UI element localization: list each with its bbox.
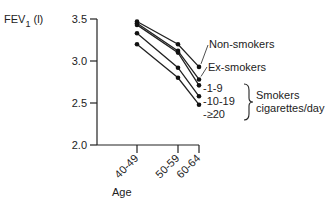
legend-label-1-9: -1-9 <box>203 82 223 94</box>
legend-label-non-smokers: Non-smokers <box>209 38 275 50</box>
data-point <box>176 65 181 70</box>
series-line <box>137 33 199 96</box>
fev1-line-chart: 2.02.53.03.540-4950-5960-64AgeFEV1 (l)No… <box>0 0 335 212</box>
data-point <box>197 94 202 99</box>
y-tick-label: 2.5 <box>72 97 87 109</box>
smokers-group-label: Smokers <box>256 89 300 101</box>
x-tick-label: 60-64 <box>174 152 202 180</box>
group-brace <box>244 84 253 120</box>
data-point <box>135 31 140 36</box>
series-line <box>137 44 199 104</box>
y-axis-title: FEV1 (l) <box>4 13 43 29</box>
data-point <box>135 23 140 28</box>
data-point <box>197 102 202 107</box>
series-line <box>137 25 199 85</box>
leader-line <box>201 67 207 76</box>
data-point <box>197 83 202 88</box>
leader-line <box>201 45 208 64</box>
x-tick-label: 40-49 <box>112 152 140 180</box>
data-point <box>197 77 202 82</box>
legend-label-20-plus: -≥20 <box>203 108 225 120</box>
legend-label-ex-smokers: Ex-smokers <box>208 61 267 73</box>
y-tick-label: 2.0 <box>72 139 87 151</box>
data-point <box>135 42 140 47</box>
data-point <box>176 50 181 55</box>
y-tick-label: 3.5 <box>72 13 87 25</box>
data-point <box>197 65 202 70</box>
data-point <box>176 42 181 47</box>
x-axis-title: Age <box>112 186 132 198</box>
cigarettes-per-day-label: cigarettes/day <box>256 102 325 114</box>
legend-label-10-19: -10-19 <box>203 95 235 107</box>
data-point <box>176 76 181 81</box>
y-tick-label: 3.0 <box>72 55 87 67</box>
